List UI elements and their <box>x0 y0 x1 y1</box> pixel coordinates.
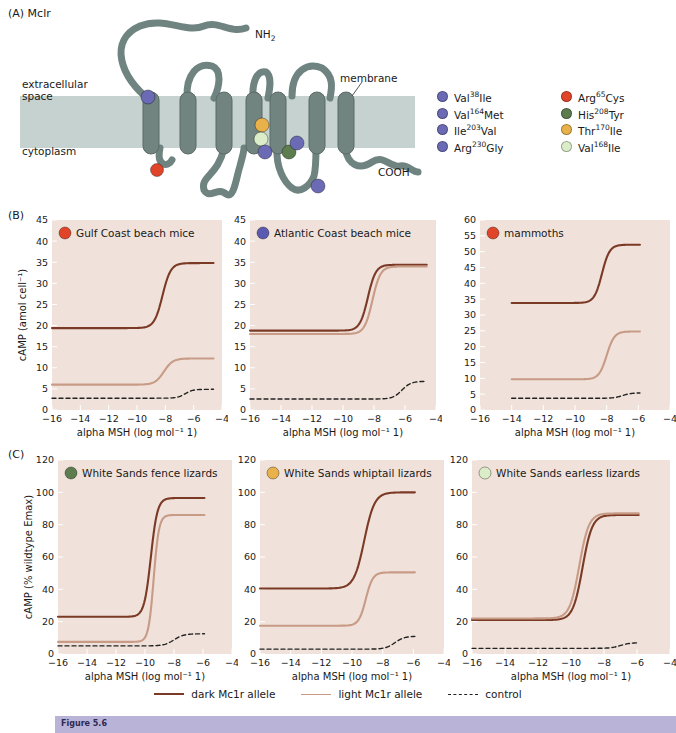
marker-val168ile <box>254 132 268 146</box>
x-tick-label: −6 <box>631 413 645 424</box>
x-tick-label: −6 <box>406 657 420 668</box>
x-tick-label: −12 <box>528 657 548 668</box>
mutation-label: His208Tyr <box>578 107 624 121</box>
mutation-legend-item: Thr170Ile <box>561 123 673 137</box>
y-tick-label: 40 <box>456 584 468 595</box>
x-tick-label: −14 <box>495 657 515 668</box>
x-tick-label: −10 <box>565 413 585 424</box>
mutation-legend: Val38IleArg65CysVal164MetHis208TyrIle203… <box>437 90 673 153</box>
y-tick-label: 120 <box>238 454 256 465</box>
chart-cell: 051015202530354045−16−14−12−10−8−6−4alph… <box>0 212 228 440</box>
legend-item-dark: dark Mc1r allele <box>154 688 275 700</box>
caption-bar: Figure 5.6 <box>55 716 676 733</box>
x-tick-label: −12 <box>302 413 322 424</box>
x-tick-label: −8 <box>158 413 172 424</box>
y-tick-label: 55 <box>464 230 476 241</box>
y-tick-label: 80 <box>244 519 256 530</box>
panel-a-receptor-diagram: (A) Mclr <box>0 0 676 208</box>
mutation-color-dot <box>561 124 572 135</box>
legend-line-swatch <box>154 693 184 695</box>
mutation-label: Ile203Val <box>454 123 497 137</box>
x-tick-label: −16 <box>250 657 270 668</box>
y-tick-label: 45 <box>234 214 246 225</box>
x-tick-label: −4 <box>437 657 450 668</box>
x-tick-label: −12 <box>311 657 331 668</box>
y-tick-label: 10 <box>36 362 48 373</box>
y-tick-label: 15 <box>36 341 48 352</box>
y-tick-label: 40 <box>42 584 54 595</box>
loop-i2 <box>203 148 244 195</box>
y-tick-label: 20 <box>36 320 48 331</box>
mutation-legend-item: Val164Met <box>437 107 549 121</box>
x-tick-label: −14 <box>502 413 522 424</box>
y-tick-label: 5 <box>240 383 246 394</box>
mc1r-membrane-diagram: extracellular space membrane cytoplasm N… <box>0 0 430 208</box>
legend-label: control <box>485 688 521 700</box>
y-tick-label: 45 <box>36 214 48 225</box>
x-tick-label: −10 <box>333 413 353 424</box>
legend-line-swatch <box>448 694 478 695</box>
mutation-color-dot <box>437 108 448 119</box>
y-tick-label: 100 <box>36 487 54 498</box>
y-tick-label: 25 <box>464 325 476 336</box>
x-tick-label: −4 <box>663 413 676 424</box>
x-tick-label: −6 <box>196 657 210 668</box>
x-tick-label: −12 <box>533 413 553 424</box>
mutation-label: Arg65Cys <box>578 90 625 104</box>
mutation-legend-item: Arg230Gly <box>437 140 549 154</box>
y-tick-label: 15 <box>234 341 246 352</box>
chart-white-sands-whiptail-lizards: 020406080100120−16−14−12−10−8−6−4alpha M… <box>238 452 450 684</box>
x-axis-title: alpha MSH (log mol⁻¹ 1) <box>511 671 631 682</box>
membrane-label: membrane <box>340 72 397 84</box>
y-tick-label: 40 <box>244 584 256 595</box>
legend-label: light Mc1r allele <box>338 688 422 700</box>
y-tick-label: 120 <box>450 454 468 465</box>
y-tick-label: 80 <box>456 519 468 530</box>
marker-arg230gly <box>311 179 325 193</box>
y-tick-label: 5 <box>42 383 48 394</box>
y-tick-label: 10 <box>464 373 476 384</box>
x-tick-label: −6 <box>187 413 201 424</box>
chart-cell: 020406080100120−16−14−12−10−8−6−4alpha M… <box>238 452 450 684</box>
y-tick-label: 10 <box>234 362 246 373</box>
y-tick-label: 60 <box>464 214 476 225</box>
mutation-label: Val168Ile <box>578 140 621 154</box>
y-tick-label: 60 <box>456 551 468 562</box>
x-axis-title: alpha MSH (log mol⁻¹ 1) <box>283 427 403 438</box>
mutation-color-dot <box>561 91 572 102</box>
x-tick-label: −4 <box>225 657 238 668</box>
chart-title: Atlantic Coast beach mice <box>274 227 411 239</box>
panel-c-charts: 020406080100120−16−14−12−10−8−6−4alpha M… <box>0 452 676 684</box>
y-tick-label: 30 <box>234 278 246 289</box>
x-tick-label: −10 <box>127 413 147 424</box>
x-tick-label: −16 <box>48 657 68 668</box>
x-tick-label: −14 <box>281 657 301 668</box>
chart-marker-dot <box>59 227 71 239</box>
x-tick-label: −4 <box>663 657 676 668</box>
membrane-pointer <box>352 82 362 96</box>
x-tick-label: −16 <box>470 413 490 424</box>
marker-thr170ile <box>255 118 269 132</box>
y-tick-label: 100 <box>450 487 468 498</box>
chart-cell: 020406080100120−16−14−12−10−8−6−4alpha M… <box>450 452 676 684</box>
x-tick-label: −8 <box>597 657 611 668</box>
loop-e3 <box>292 66 332 98</box>
x-tick-label: −16 <box>42 413 62 424</box>
chart-title: White Sands earless lizards <box>496 467 640 479</box>
cytoplasm-label: cytoplasm <box>22 145 76 157</box>
x-tick-label: −10 <box>342 657 362 668</box>
mutation-legend-item: Val38Ile <box>437 90 549 104</box>
y-tick-label: 35 <box>36 257 48 268</box>
x-tick-label: −8 <box>376 657 390 668</box>
mutation-label: Thr170Ile <box>578 123 622 137</box>
mutation-legend-item: Val168Ile <box>561 140 673 154</box>
y-tick-label: 5 <box>470 389 476 400</box>
y-tick-label: 20 <box>234 320 246 331</box>
y-tick-label: 25 <box>234 299 246 310</box>
chart-white-sands-earless-lizards: 020406080100120−16−14−12−10−8−6−4alpha M… <box>450 452 676 684</box>
x-tick-label: −4 <box>215 413 228 424</box>
mutation-label: Arg230Gly <box>454 140 504 154</box>
y-tick-label: 20 <box>244 616 256 627</box>
y-tick-label: 50 <box>464 246 476 257</box>
y-axis-title: cAMP (amol cell⁻¹) <box>17 269 28 362</box>
